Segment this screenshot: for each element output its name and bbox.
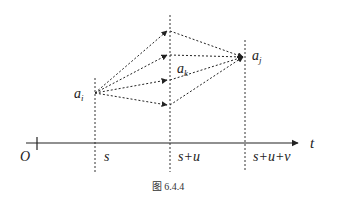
origin-label: O: [20, 149, 30, 164]
time-label-s-u-v: s+u+v: [253, 149, 291, 164]
network-diagram: ai ak aj t O s s+u s+u+v 图 6.4.4: [0, 0, 338, 203]
node-label-aj: aj: [252, 48, 262, 65]
time-label-s: s: [104, 149, 110, 164]
axis-label-t: t: [310, 135, 315, 151]
figure-caption: 图 6.4.4: [152, 181, 185, 192]
time-label-s-u: s+u: [178, 149, 200, 164]
node-label-ai: ai: [74, 86, 84, 103]
node-label-ak: ak: [177, 61, 189, 78]
first-leg-arrows: [95, 31, 167, 105]
